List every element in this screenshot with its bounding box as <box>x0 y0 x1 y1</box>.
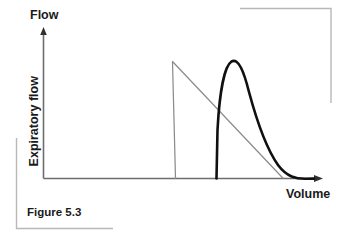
y-axis-arrow-label: Flow <box>30 9 58 22</box>
y-axis-label: Expiratory flow <box>28 71 41 171</box>
figure-container: Flow Expiratory flow Volume Figure 5.3 <box>0 0 349 249</box>
figure-caption: Figure 5.3 <box>27 207 81 219</box>
y-axis-arrowhead <box>40 27 47 35</box>
x-axis-arrowhead <box>314 175 323 182</box>
chart-axes <box>40 27 323 182</box>
decorative-bracket-top-right <box>240 9 331 104</box>
x-axis-label: Volume <box>286 188 330 201</box>
bold-flow-volume-curve <box>217 61 315 179</box>
thin-flow-volume-curve <box>173 62 284 179</box>
